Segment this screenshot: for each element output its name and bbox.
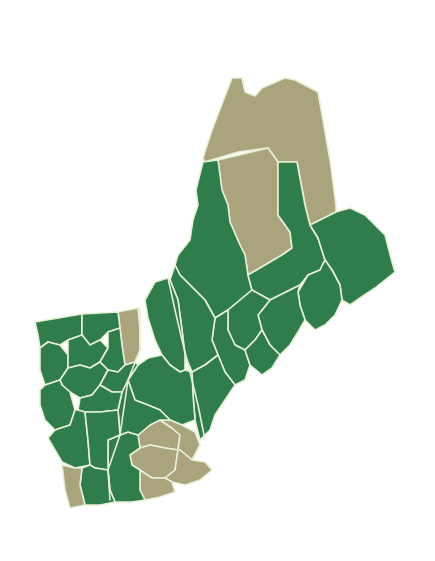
new-england-choropleth-map (0, 0, 435, 561)
